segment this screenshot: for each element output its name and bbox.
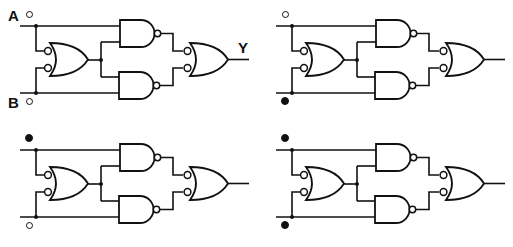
nand-output-bubble <box>153 82 159 88</box>
inverter-bubble <box>184 65 191 72</box>
nand-output-bubble <box>409 206 415 212</box>
nand-output-bubble <box>154 30 160 36</box>
inverter-bubble <box>440 172 447 179</box>
circuit-panel-top-right <box>256 0 512 124</box>
input-a-label: A <box>8 8 19 23</box>
inverter-bubble <box>184 172 191 179</box>
nand1-output-wire <box>417 158 439 176</box>
circuit-schematic <box>256 0 512 124</box>
b-branch-wire <box>292 192 300 217</box>
junction-b-dot <box>290 215 294 219</box>
nand-output-bubble <box>154 154 160 160</box>
nand2-output-wire <box>160 68 183 86</box>
or-gate-2 <box>446 43 484 76</box>
nand-gate-1 <box>376 20 411 47</box>
or-gate-1 <box>50 167 88 200</box>
a-branch-wire <box>292 26 300 51</box>
nand-output-bubble <box>153 206 159 212</box>
a-branch-wire <box>292 150 300 175</box>
inverter-bubble <box>301 65 308 72</box>
nand-gate-2 <box>375 72 410 99</box>
b-branch-wire <box>36 192 44 217</box>
inverter-bubble <box>301 189 308 196</box>
circuit-schematic <box>0 124 256 247</box>
circuit-schematic <box>256 124 512 247</box>
b-branch-wire <box>292 68 300 93</box>
input-b-label: B <box>8 95 19 110</box>
or-gate-1 <box>50 43 88 76</box>
inverter-bubble <box>184 189 191 196</box>
circuit-schematic <box>0 0 256 124</box>
input-a-state-indicator <box>26 11 33 18</box>
logic-diagram-figure: ABY <box>0 0 513 247</box>
b-branch-wire <box>36 68 44 93</box>
input-b-state-indicator <box>281 97 289 105</box>
a-branch-wire <box>36 26 44 51</box>
nand-output-bubble <box>410 30 416 36</box>
junction-b-dot <box>34 215 38 219</box>
or-gate-2 <box>446 167 484 200</box>
nand1-output-wire <box>417 34 439 52</box>
nand2-output-wire <box>160 192 183 210</box>
inverter-bubble <box>440 189 447 196</box>
nand2-output-wire <box>416 192 439 210</box>
junction-a-dot <box>34 24 38 28</box>
junction-a-dot <box>34 148 38 152</box>
inverter-bubble <box>301 48 308 55</box>
junction-b-dot <box>34 91 38 95</box>
inverter-bubble <box>301 172 308 179</box>
nand1-output-wire <box>161 34 183 52</box>
a-branch-wire <box>36 150 44 175</box>
or-gate-2 <box>190 43 228 76</box>
input-b-state-indicator <box>26 98 33 105</box>
inverter-bubble <box>45 65 52 72</box>
inverter-bubble <box>45 172 52 179</box>
input-a-state-indicator <box>282 11 289 18</box>
input-b-state-indicator <box>281 221 289 229</box>
nand-gate-2 <box>375 196 410 223</box>
inverter-bubble <box>184 48 191 55</box>
or-gate-2 <box>190 167 228 200</box>
nand-output-bubble <box>410 154 416 160</box>
inverter-bubble <box>45 189 52 196</box>
input-b-state-indicator <box>26 222 33 229</box>
junction-a-dot <box>290 24 294 28</box>
nand-gate-2 <box>119 72 154 99</box>
junction-a-dot <box>290 148 294 152</box>
inverter-bubble <box>45 48 52 55</box>
output-y-label: Y <box>238 40 248 55</box>
nand1-output-wire <box>161 158 183 176</box>
inverter-bubble <box>440 65 447 72</box>
nand-gate-1 <box>376 144 411 171</box>
circuit-panel-top-left: ABY <box>0 0 256 124</box>
input-a-state-indicator <box>281 134 289 142</box>
or-gate-1 <box>306 43 344 76</box>
circuit-panel-bottom-left <box>0 124 256 247</box>
nand-gate-1 <box>120 20 155 47</box>
nand-gate-2 <box>119 196 154 223</box>
nand2-output-wire <box>416 68 439 86</box>
inverter-bubble <box>440 48 447 55</box>
circuit-panel-bottom-right <box>256 124 512 247</box>
nand-gate-1 <box>120 144 155 171</box>
or-gate-1 <box>306 167 344 200</box>
junction-b-dot <box>290 91 294 95</box>
input-a-state-indicator <box>25 134 33 142</box>
nand-output-bubble <box>409 82 415 88</box>
